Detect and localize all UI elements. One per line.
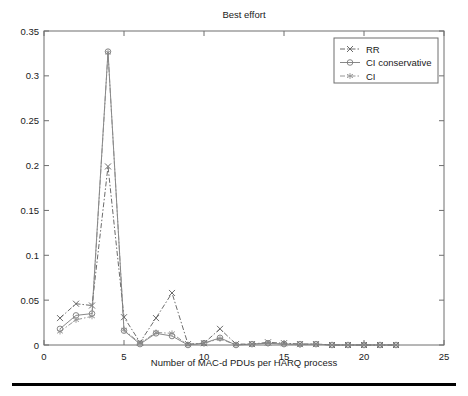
y-tick-label: 0.05 <box>21 295 40 306</box>
chart-title: Best effort <box>222 9 265 20</box>
y-tick-label: 0 <box>34 340 39 351</box>
y-tick-label: 0.25 <box>21 115 40 126</box>
screenshot-page: Best effort 0510152025 00.050.10.150.20.… <box>0 0 468 396</box>
y-tick-label: 0.3 <box>26 70 39 81</box>
x-axis-label: Number of MAC-d PDUs per HARQ process <box>151 357 338 368</box>
legend-label: RR <box>366 44 380 55</box>
y-tick-label: 0.1 <box>26 250 39 261</box>
y-tick-label: 0.15 <box>21 205 40 216</box>
chart-canvas: Best effort 0510152025 00.050.10.150.20.… <box>0 0 468 372</box>
legend-label: CI conservative <box>366 57 431 68</box>
x-tick-label: 0 <box>41 351 46 362</box>
x-tick-label: 5 <box>121 351 126 362</box>
x-tick-label: 25 <box>439 351 450 362</box>
y-tick-label: 0.2 <box>26 160 39 171</box>
x-tick-label: 20 <box>359 351 370 362</box>
chart-legend[interactable]: RRCI conservativeCI <box>334 38 438 83</box>
bottom-horizontal-rule <box>12 383 456 386</box>
chart-figure: Best effort 0510152025 00.050.10.150.20.… <box>0 0 468 372</box>
legend-label: CI <box>366 71 376 82</box>
y-tick-label: 0.35 <box>21 26 40 37</box>
